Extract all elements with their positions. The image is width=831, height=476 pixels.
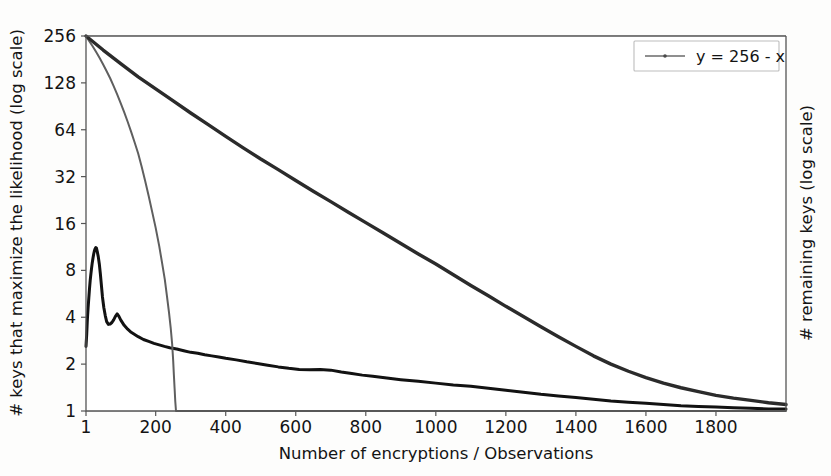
- y-tick-label-5: 32: [54, 167, 76, 187]
- x-tick-label-9: 1800: [694, 417, 737, 437]
- x-tick-label-1: 200: [139, 417, 171, 437]
- plot-area: [86, 36, 786, 411]
- y-tick-label-2: 4: [65, 307, 76, 327]
- x-tick-label-8: 1600: [624, 417, 667, 437]
- x-tick-label-0: 1: [81, 417, 92, 437]
- y-axis-title-right: # remaining keys (log scale): [797, 105, 816, 341]
- y-tick-label-1: 2: [65, 354, 76, 374]
- chart-figure: 120040060080010001200140016001800 124816…: [0, 0, 831, 476]
- x-tick-label-6: 1200: [484, 417, 527, 437]
- y-axis-title-left: # keys that maximize the likelihood (log…: [7, 29, 26, 417]
- y-tick-label-8: 256: [44, 26, 76, 46]
- x-axis-title: Number of encryptions / Observations: [279, 444, 594, 463]
- y-tick-label-3: 8: [65, 260, 76, 280]
- chart-legend[interactable]: y = 256 - x: [634, 41, 785, 71]
- chart-canvas: 120040060080010001200140016001800 124816…: [0, 0, 831, 476]
- plot-area-background: [86, 36, 786, 411]
- x-tick-label-4: 800: [350, 417, 382, 437]
- legend-label-series-0: y = 256 - x: [696, 47, 785, 66]
- x-tick-label-3: 600: [280, 417, 312, 437]
- x-tick-label-2: 400: [209, 417, 241, 437]
- x-tick-label-7: 1400: [554, 417, 597, 437]
- y-tick-label-0: 1: [65, 401, 76, 421]
- x-tick-label-5: 1000: [414, 417, 457, 437]
- y-tick-label-6: 64: [54, 120, 76, 140]
- legend-marker-dot: [663, 54, 667, 58]
- y-tick-label-7: 128: [44, 73, 76, 93]
- y-tick-label-4: 16: [54, 214, 76, 234]
